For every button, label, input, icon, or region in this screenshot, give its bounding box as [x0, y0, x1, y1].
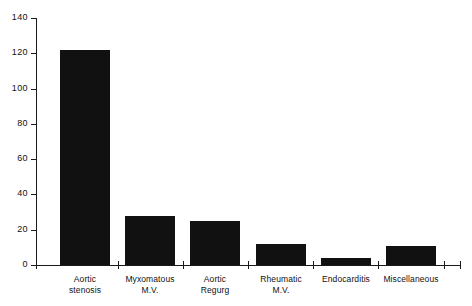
- y-axis-tick: [31, 124, 37, 125]
- y-axis-tick-label: 40: [0, 189, 28, 198]
- y-axis-tick-label: 80: [0, 119, 28, 128]
- y-axis-tick-label: 0: [0, 260, 28, 269]
- bar: [256, 244, 306, 265]
- bar-chart: 020406080100120140 Aortic stenosisMyxoma…: [0, 0, 472, 306]
- y-axis-tick: [31, 53, 37, 54]
- bar: [321, 258, 371, 265]
- x-axis-tick: [183, 261, 184, 269]
- bar: [386, 246, 436, 265]
- y-axis-tick-label: 100: [0, 84, 28, 93]
- y-axis-tick: [31, 159, 37, 160]
- x-axis-tick: [378, 261, 379, 269]
- bar: [60, 50, 110, 265]
- y-axis-tick: [31, 194, 37, 195]
- x-axis-tick: [36, 261, 37, 269]
- x-axis-tick: [444, 261, 445, 269]
- x-axis-tick: [460, 261, 461, 269]
- x-axis-tick: [313, 261, 314, 269]
- y-axis-tick-label: 20: [0, 225, 28, 234]
- y-axis-tick: [31, 18, 37, 19]
- y-axis-tick-label: 60: [0, 154, 28, 163]
- y-axis-tick: [31, 89, 37, 90]
- y-axis-tick: [31, 230, 37, 231]
- bar: [125, 216, 175, 265]
- y-axis-tick-label: 140: [0, 13, 28, 22]
- bar: [190, 221, 240, 265]
- y-axis-tick-label: 120: [0, 48, 28, 57]
- x-axis-tick: [248, 261, 249, 269]
- x-axis-tick: [118, 261, 119, 269]
- x-axis-tick-label: Miscellaneous: [372, 274, 450, 285]
